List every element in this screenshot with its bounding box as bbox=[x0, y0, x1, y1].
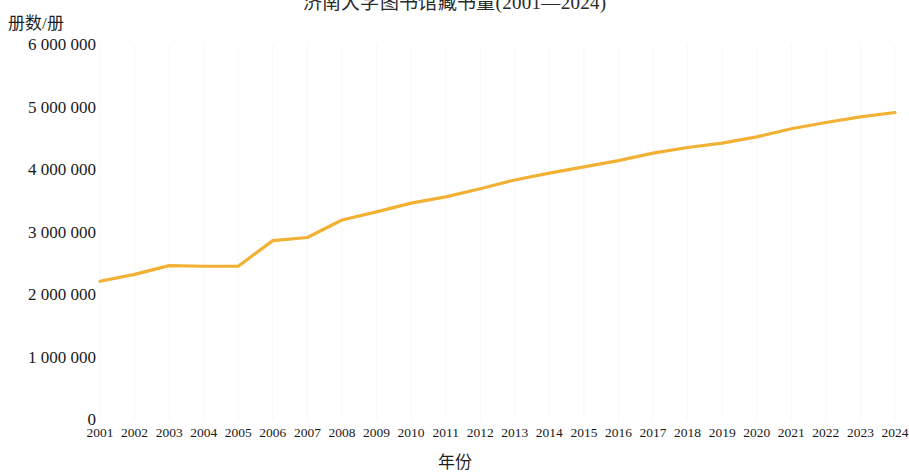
x-tick-label: 2005 bbox=[219, 425, 257, 441]
y-axis-tick-labels: 01 000 0002 000 0003 000 0004 000 0005 0… bbox=[0, 0, 96, 474]
x-axis-title: 年份 bbox=[0, 448, 909, 473]
x-tick-label: 2011 bbox=[427, 425, 465, 441]
x-tick-label: 2019 bbox=[703, 425, 741, 441]
x-tick-label: 2014 bbox=[530, 425, 568, 441]
x-tick-label: 2008 bbox=[323, 425, 361, 441]
x-tick-label: 2003 bbox=[150, 425, 188, 441]
x-tick-label: 2007 bbox=[288, 425, 326, 441]
x-tick-label: 2016 bbox=[599, 425, 637, 441]
x-tick-label: 2023 bbox=[841, 425, 879, 441]
x-tick-label: 2018 bbox=[669, 425, 707, 441]
x-tick-label: 2010 bbox=[392, 425, 430, 441]
x-tick-label: 2022 bbox=[807, 425, 845, 441]
y-tick-label: 1 000 000 bbox=[4, 349, 96, 366]
x-tick-label: 2017 bbox=[634, 425, 672, 441]
x-tick-label: 2020 bbox=[738, 425, 776, 441]
y-tick-label: 6 000 000 bbox=[4, 36, 96, 53]
y-tick-label: 2 000 000 bbox=[4, 286, 96, 303]
y-tick-label: 5 000 000 bbox=[4, 99, 96, 116]
x-tick-label: 2002 bbox=[116, 425, 154, 441]
x-tick-label: 2013 bbox=[496, 425, 534, 441]
x-tick-label: 2001 bbox=[81, 425, 119, 441]
data-series-line bbox=[100, 45, 895, 420]
x-axis-tick-labels: 2001200220032004200520062007200820092010… bbox=[100, 425, 895, 445]
x-tick-label: 2012 bbox=[461, 425, 499, 441]
x-tick-label: 2004 bbox=[185, 425, 223, 441]
line-chart: 济南大学图书馆藏书量(2001—2024) 册数/册 01 000 0002 0… bbox=[0, 0, 909, 474]
x-tick-label: 2006 bbox=[254, 425, 292, 441]
x-tick-label: 2009 bbox=[358, 425, 396, 441]
x-tick-label: 2024 bbox=[876, 425, 909, 441]
chart-title: 济南大学图书馆藏书量(2001—2024) bbox=[0, 0, 909, 14]
y-tick-label: 4 000 000 bbox=[4, 161, 96, 178]
y-tick-label: 3 000 000 bbox=[4, 224, 96, 241]
series-line-馆藏册数 bbox=[100, 113, 895, 282]
x-tick-label: 2015 bbox=[565, 425, 603, 441]
plot-area bbox=[100, 45, 895, 420]
x-tick-label: 2021 bbox=[772, 425, 810, 441]
